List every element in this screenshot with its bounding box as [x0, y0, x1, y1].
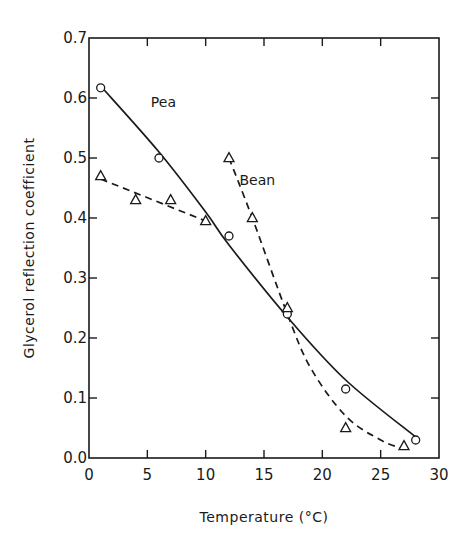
point-bean [224, 153, 234, 162]
point-pea [412, 436, 420, 444]
point-bean [96, 171, 106, 180]
point-bean [166, 195, 176, 204]
y-tick-label: 0.1 [63, 389, 87, 407]
tick-labels: 0510152025300.00.10.20.30.40.50.60.7 [63, 29, 448, 484]
point-bean [341, 423, 351, 432]
point-pea [342, 385, 350, 393]
x-tick-label: 25 [371, 466, 390, 484]
data-markers [96, 84, 420, 450]
point-pea [97, 84, 105, 92]
annotation-pea: Pea [151, 94, 176, 110]
y-tick-label: 0.7 [63, 29, 87, 47]
x-tick-label: 30 [429, 466, 448, 484]
fit-curves [101, 86, 416, 449]
y-tick-label: 0.3 [63, 269, 87, 287]
point-bean [247, 213, 257, 222]
point-pea [155, 154, 163, 162]
x-tick-label: 0 [84, 466, 94, 484]
x-axis-title: Temperature (°C) [199, 509, 329, 525]
x-tick-label: 15 [254, 466, 273, 484]
fit-line-bean [101, 179, 206, 221]
annotation-bean: Bean [240, 172, 276, 188]
y-tick-label: 0.6 [63, 89, 87, 107]
point-bean [399, 441, 409, 450]
x-tick-label: 10 [196, 466, 215, 484]
y-tick-label: 0.0 [63, 449, 87, 467]
chart: 0510152025300.00.10.20.30.40.50.60.7 Tem… [0, 0, 470, 539]
y-axis-title: Glycerol reflection coefficient [21, 138, 37, 359]
y-tick-label: 0.2 [63, 329, 87, 347]
y-tick-label: 0.4 [63, 209, 87, 227]
fit-line-bean [229, 158, 404, 449]
x-tick-label: 20 [313, 466, 332, 484]
fit-line-pea [101, 86, 416, 437]
point-bean [131, 195, 141, 204]
y-tick-label: 0.5 [63, 149, 87, 167]
x-tick-label: 5 [143, 466, 153, 484]
point-pea [225, 232, 233, 240]
